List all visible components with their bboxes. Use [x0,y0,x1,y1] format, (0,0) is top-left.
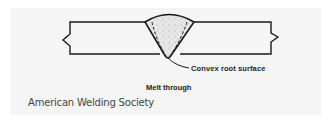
right-plate [180,22,278,54]
root-leader-line [168,58,189,68]
left-plate [63,22,160,54]
figure-caption: Melt through [146,83,191,92]
figure-credit: American Welding Society [28,97,154,108]
callout-convex-root-surface: Convex root surface [191,64,265,73]
weld-bead [145,15,194,59]
